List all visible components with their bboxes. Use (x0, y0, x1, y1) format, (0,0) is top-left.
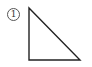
triangle-outline (29, 8, 80, 60)
right-triangle-figure (0, 0, 92, 67)
